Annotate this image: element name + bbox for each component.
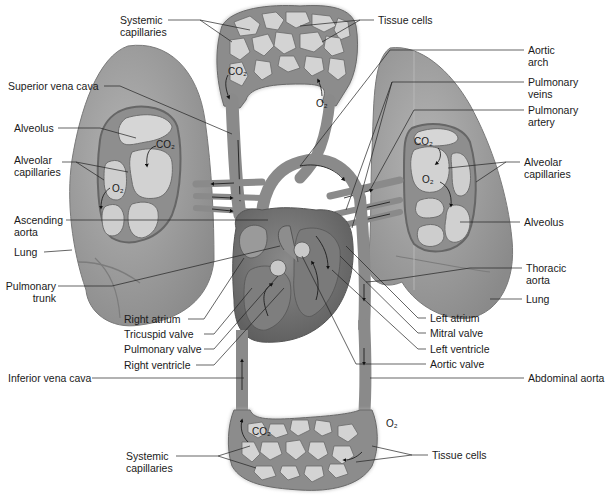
label-tissue-cells-top: Tissue cells — [378, 14, 432, 26]
gas-co2-left-lung: CO₂ — [156, 139, 175, 150]
label-lung-right: Lung — [526, 293, 549, 305]
label-superior-vena-cava: Superior vena cava — [8, 80, 98, 92]
gas-o2-top: O₂ — [316, 98, 328, 109]
gas-co2-bottom: CO₂ — [252, 426, 271, 437]
gas-o2-bottom: O₂ — [386, 418, 398, 429]
gas-co2-top: CO₂ — [228, 66, 247, 77]
label-pulmonary-veins: Pulmonary veins — [528, 76, 578, 100]
label-lung-left: Lung — [14, 246, 37, 258]
circulation-diagram: Systemic capillaries Tissue cells Aortic… — [0, 0, 616, 497]
label-left-ventricle: Left ventricle — [430, 343, 490, 355]
label-aortic-arch: Aortic arch — [528, 44, 555, 68]
label-alveolus-left: Alveolus — [14, 122, 54, 134]
bottom-capillary-bed — [228, 410, 377, 490]
label-systemic-capillaries-top: Systemic capillaries — [120, 14, 167, 38]
label-alveolar-capillaries-left: Alveolar capillaries — [14, 154, 61, 178]
label-right-ventricle: Right ventricle — [124, 359, 191, 371]
gas-o2-right-lung: O₂ — [422, 174, 434, 185]
label-thoracic-aorta: Thoracic aorta — [526, 262, 566, 286]
label-pulmonary-trunk: Pulmonary trunk — [4, 280, 56, 304]
label-pulmonary-artery: Pulmonary artery — [528, 104, 578, 128]
label-aortic-valve: Aortic valve — [430, 358, 484, 370]
label-systemic-capillaries-bottom: Systemic capillaries — [126, 450, 173, 474]
label-inferior-vena-cava: Inferior vena cava — [8, 372, 91, 384]
label-tissue-cells-bottom: Tissue cells — [432, 449, 486, 461]
label-mitral-valve: Mitral valve — [430, 327, 483, 339]
label-abdominal-aorta: Abdominal aorta — [528, 372, 604, 384]
diagram-artwork — [0, 0, 616, 497]
label-left-atrium: Left atrium — [430, 312, 480, 324]
gas-o2-left-lung: O₂ — [112, 183, 124, 194]
left-alveolar-cluster — [98, 106, 181, 242]
label-ascending-aorta: Ascending aorta — [14, 214, 63, 238]
label-tricuspid-valve: Tricuspid valve — [124, 328, 194, 340]
label-alveolar-capillaries-right: Alveolar capillaries — [524, 156, 571, 180]
label-right-atrium: Right atrium — [124, 313, 181, 325]
label-pulmonary-valve: Pulmonary valve — [124, 343, 202, 355]
label-alveolus-right: Alveolus — [524, 216, 564, 228]
gas-co2-right-lung: CO₂ — [414, 136, 433, 147]
